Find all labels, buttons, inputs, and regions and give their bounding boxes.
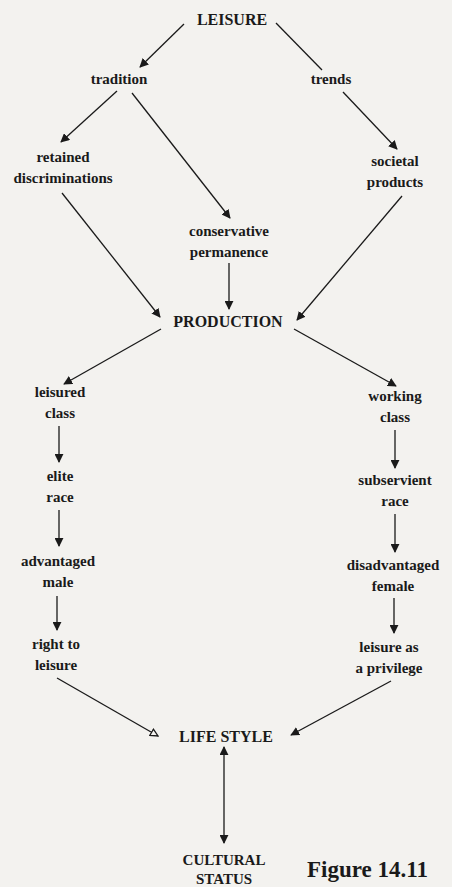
edge-production-working bbox=[294, 329, 396, 386]
node-life-style: LIFE STYLE bbox=[179, 726, 273, 747]
node-elite-race: elite race bbox=[46, 466, 73, 508]
node-disadvantaged-female: disadvantaged female bbox=[347, 555, 440, 597]
node-societal-products: societal products bbox=[367, 151, 423, 193]
edge-trends-societal bbox=[343, 92, 397, 149]
node-tradition: tradition bbox=[91, 69, 148, 90]
edge-retained-production bbox=[62, 193, 160, 317]
node-retained-discriminations: retained discriminations bbox=[13, 147, 112, 189]
node-trends: trends bbox=[311, 69, 352, 90]
edge-production-leisured bbox=[64, 329, 161, 384]
node-leisure: LEISURE bbox=[197, 9, 267, 30]
node-leisure-as-a-privilege: leisure as a privilege bbox=[355, 637, 422, 679]
edge-leisure-tradition bbox=[140, 24, 184, 67]
edge-leisure-trends bbox=[276, 23, 322, 70]
figure-caption: Figure 14.11 bbox=[307, 857, 428, 883]
edge-privilege-lifestyle bbox=[291, 681, 391, 735]
node-right-to-leisure: right to leisure bbox=[32, 634, 80, 676]
leisure-flow-diagram: LEISURE tradition trends retained discri… bbox=[0, 0, 452, 887]
node-conservative-permanence: conservative permanence bbox=[189, 221, 269, 263]
edge-societal-production bbox=[297, 196, 402, 320]
connector-layer bbox=[0, 0, 452, 887]
edge-tradition-retained bbox=[61, 91, 117, 142]
node-subservient-race: subservient race bbox=[358, 470, 431, 512]
node-advantaged-male: advantaged male bbox=[21, 551, 95, 593]
node-leisured-class: leisured class bbox=[35, 382, 86, 424]
node-cultural-status: CULTURAL STATUS bbox=[183, 851, 266, 887]
edge-right-lifestyle bbox=[57, 678, 158, 736]
edge-tradition-conservative bbox=[132, 93, 230, 218]
node-working-class: working class bbox=[368, 386, 421, 428]
node-production: PRODUCTION bbox=[173, 311, 282, 332]
